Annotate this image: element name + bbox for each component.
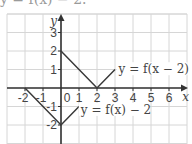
x-tick-label: -1 xyxy=(36,91,47,105)
series-label-2: y = f(x) − 2 xyxy=(80,103,151,117)
y-axis-label: y xyxy=(49,14,57,28)
y-tick-label: 2 xyxy=(50,44,57,58)
x-axis-label: x xyxy=(182,90,189,104)
grid-lines xyxy=(7,14,187,144)
annotations: y = f(x − 2)y = f(x) − 2 xyxy=(79,62,189,117)
series-label-1: y = f(x − 2) xyxy=(118,62,189,76)
x-tick-label: 6 xyxy=(166,91,173,105)
function-graph: -2-10123456321-1-2xy y = f(x − 2)y = f(x… xyxy=(0,0,192,144)
x-tick-label: 0 xyxy=(64,91,71,105)
y-tick-label: 1 xyxy=(50,63,57,77)
y-axis-arrow-icon xyxy=(58,14,65,21)
x-tick-label: -2 xyxy=(18,91,29,105)
